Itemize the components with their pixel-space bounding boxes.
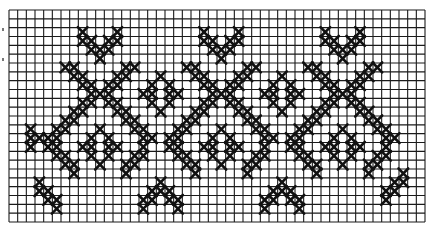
scan-mark	[2, 28, 4, 31]
cross-stitch-chart	[0, 0, 433, 230]
scan-mark	[2, 58, 4, 61]
